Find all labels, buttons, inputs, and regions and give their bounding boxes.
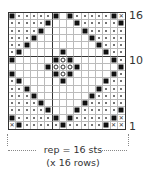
chart-cell-r13-c12 [89, 35, 96, 42]
chart-cell-r9-c3 [24, 64, 31, 71]
open-circle-icon [53, 64, 58, 69]
filled-square-icon [24, 86, 29, 91]
chart-cell-r8-c4 [31, 71, 38, 78]
chart-cell-r4-c1 [9, 100, 16, 107]
chart-cell-r10-c15 [111, 57, 118, 64]
chart-cell-r2-c11 [82, 115, 89, 122]
chart-cell-r3-c7 [53, 107, 60, 114]
chart-cell-r8-c12 [89, 71, 96, 78]
dot-icon [91, 109, 93, 111]
chart-cell-r4-c14 [103, 100, 110, 107]
chart-cell-r6-c1 [9, 86, 16, 93]
chart-cell-r16-c7 [53, 13, 60, 20]
chart-cell-r11-c16 [118, 49, 125, 56]
chart-cell-r2-c4 [31, 115, 38, 122]
dot-icon [105, 44, 107, 46]
chart-cell-r11-c1 [9, 49, 16, 56]
dot-icon [47, 15, 49, 17]
chart-cell-r11-c9 [67, 49, 74, 56]
chart-cell-r11-c12 [89, 49, 96, 56]
chart-cell-r2-c2 [16, 115, 23, 122]
chart-cell-r16-c14 [103, 13, 110, 20]
chart-cell-r7-c9 [67, 78, 74, 85]
chart-cell-r15-c1 [9, 20, 16, 27]
chart-cell-r8-c3 [24, 71, 31, 78]
dot-icon [33, 22, 35, 24]
chart-cell-r2-c7 [53, 115, 60, 122]
chart-cell-r3-c10 [74, 107, 81, 114]
chart-cell-r6-c7 [53, 86, 60, 93]
filled-square-icon [111, 57, 116, 62]
filled-square-icon [97, 43, 102, 48]
chart-cell-r14-c14 [103, 28, 110, 35]
chart-cell-r4-c9 [67, 100, 74, 107]
open-circle-icon [60, 57, 65, 62]
chart-cell-r5-c13 [96, 93, 103, 100]
chart-cell-r1-c4 [31, 122, 38, 129]
dot-icon [76, 117, 78, 119]
repeat-rows-label: (x 16 rows) [0, 157, 146, 168]
chart-cell-r13-c3 [24, 35, 31, 42]
chart-cell-r16-c11 [82, 13, 89, 20]
chart-cell-r8-c10 [74, 71, 81, 78]
dot-icon [105, 95, 107, 97]
dot-icon [26, 102, 28, 104]
chart-cell-r5-c3 [24, 93, 31, 100]
dot-icon [120, 80, 122, 82]
chart-cell-r15-c6 [45, 20, 52, 27]
chart-cell-r2-c9 [67, 115, 74, 122]
chart-cell-r4-c16 [118, 100, 125, 107]
chart-cell-r13-c2 [16, 35, 23, 42]
chart-cell-r15-c14 [103, 20, 110, 27]
chart-cell-r3-c4 [31, 107, 38, 114]
dot-icon [105, 30, 107, 32]
dot-icon [120, 59, 122, 61]
chart-cell-r2-c8 [60, 115, 67, 122]
chart-cell-r4-c11 [82, 100, 89, 107]
chart-cell-r9-c13 [96, 64, 103, 71]
dot-icon [76, 124, 78, 126]
filled-square-icon [68, 72, 73, 77]
chart-cell-r3-c12 [89, 107, 96, 114]
chart-cell-r13-c10 [74, 35, 81, 42]
dot-icon [84, 124, 86, 126]
filled-square-icon [39, 28, 44, 33]
dot-icon [113, 44, 115, 46]
filled-square-icon [17, 123, 22, 128]
chart-cell-r16-c6 [45, 13, 52, 20]
chart-cell-r8-c7 [53, 71, 60, 78]
chart-cell-r3-c14 [103, 107, 110, 114]
chart-cell-r10-c6 [45, 57, 52, 64]
dot-icon [26, 117, 28, 119]
chart-cell-r16-c5 [38, 13, 45, 20]
filled-square-icon [89, 35, 94, 40]
filled-square-icon [75, 21, 80, 26]
chart-cell-r14-c16 [118, 28, 125, 35]
dot-icon [33, 30, 35, 32]
cross-icon: ✕ [119, 115, 124, 121]
open-circle-icon [60, 64, 65, 69]
dot-icon [40, 117, 42, 119]
chart-cell-r1-c9 [67, 122, 74, 129]
chart-cell-r5-c9 [67, 93, 74, 100]
dot-icon [33, 117, 35, 119]
chart-cell-r15-c13 [96, 20, 103, 27]
dot-icon [69, 124, 71, 126]
dot-icon [91, 30, 93, 32]
chart-cell-r1-c11 [82, 122, 89, 129]
chart-cell-r10-c5 [38, 57, 45, 64]
chart-cell-r1-c7 [53, 122, 60, 129]
row-label-1: 1 [129, 121, 136, 132]
chart-cell-r7-c11 [82, 78, 89, 85]
chart-cell-r13-c5 [38, 35, 45, 42]
chart-cell-r1-c5 [38, 122, 45, 129]
chart-cell-r3-c13 [96, 107, 103, 114]
chart-cell-r1-c14 [103, 122, 110, 129]
chart-cell-r16-c13 [96, 13, 103, 20]
chart-cell-r10-c9 [67, 57, 74, 64]
chart-cell-r6-c8 [60, 86, 67, 93]
chart-cell-r15-c8 [60, 20, 67, 27]
chart-cell-r7-c14 [103, 78, 110, 85]
chart-cell-r16-c16: ✕ [118, 13, 125, 20]
chart-cell-r3-c3 [24, 107, 31, 114]
